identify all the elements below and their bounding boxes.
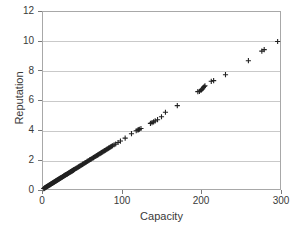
y-tick-label: 0 bbox=[8, 185, 34, 195]
y-tick-label: 12 bbox=[8, 6, 34, 16]
y-axis-title: Reputation bbox=[13, 38, 25, 158]
x-tick-mark bbox=[281, 190, 282, 194]
x-axis-title: Capacity bbox=[42, 210, 281, 222]
plot-area bbox=[42, 11, 281, 190]
scatter-chart: 12 10 8 6 4 2 0 0 100 200 300 Capacity R… bbox=[0, 0, 298, 234]
x-tick-label: 0 bbox=[22, 196, 62, 206]
x-tick-mark bbox=[42, 190, 43, 194]
x-tick-mark bbox=[201, 190, 202, 194]
x-tick-label: 100 bbox=[102, 196, 142, 206]
scatter-markers bbox=[43, 12, 280, 189]
x-tick-label: 200 bbox=[181, 196, 221, 206]
x-tick-mark bbox=[122, 190, 123, 194]
x-tick-label: 300 bbox=[261, 196, 298, 206]
